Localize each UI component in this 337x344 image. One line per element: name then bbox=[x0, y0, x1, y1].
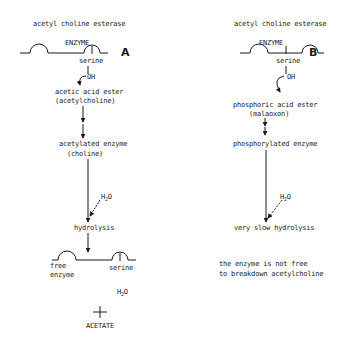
panel-a-label: A bbox=[121, 47, 130, 59]
substrate-b-line2: (malaoxon) bbox=[249, 110, 289, 118]
conclusion-line1: the enzyme is not free bbox=[219, 260, 307, 268]
free-enzyme-line2: enzyme bbox=[50, 271, 74, 279]
water-product-a: H2O bbox=[117, 288, 128, 298]
panel-b-label: B bbox=[309, 47, 317, 59]
serine-label-a: serine bbox=[79, 57, 103, 65]
substrate-a-line2: (acetylcholine) bbox=[55, 97, 115, 105]
substrate-b-line1: phosphoric acid ester bbox=[233, 101, 317, 109]
acetate-label: ACETATE bbox=[86, 322, 114, 330]
oh-label-b: OH bbox=[287, 73, 295, 81]
conclusion-line2: to breakdown acetylcholine bbox=[219, 270, 323, 278]
water-label-a: H2O bbox=[101, 193, 112, 203]
water-label-b: H2O bbox=[280, 193, 291, 203]
panel-b-title: acetyl choline esterase bbox=[234, 20, 326, 28]
enzyme-label-a: ENZYME bbox=[65, 39, 89, 47]
panel-a-title: acetyl choline esterase bbox=[33, 20, 125, 28]
serine-label-a2: serine bbox=[109, 264, 133, 272]
oh-label-a: OH bbox=[87, 73, 95, 81]
serine-label-b: serine bbox=[276, 57, 300, 65]
intermediate-a-line2: (choline) bbox=[67, 150, 103, 158]
hydrolysis-label-b: very slow hydrolysis bbox=[234, 224, 314, 232]
substrate-a-line1: acetic acid ester bbox=[55, 88, 123, 96]
intermediate-a-line1: acetylated enzyme bbox=[59, 140, 127, 148]
intermediate-b-line1: phosphorylated enzyme bbox=[233, 140, 317, 148]
diagram-lines bbox=[0, 0, 337, 344]
enzyme-label-b: ENZYME bbox=[259, 39, 283, 47]
hydrolysis-label-a: hydrolysis bbox=[74, 224, 114, 232]
free-enzyme-line1: free bbox=[50, 262, 66, 270]
